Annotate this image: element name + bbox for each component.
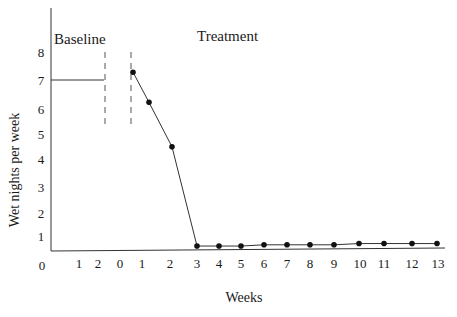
data-point-marker xyxy=(194,243,200,249)
x-tick: 1 xyxy=(76,256,83,271)
x-axis-title: Weeks xyxy=(226,290,263,305)
x-tick: 9 xyxy=(331,256,338,271)
y-tick-4: 4 xyxy=(38,152,45,167)
data-point-marker xyxy=(284,242,290,248)
x-tick-labels: 0 1 2 0 1 2 3 4 5 6 7 8 9 10 11 12 13 xyxy=(39,256,445,273)
x-tick: 2 xyxy=(167,256,174,271)
x-tick: 8 xyxy=(307,256,314,271)
y-axis-title: Wet nights per week xyxy=(7,113,22,227)
y-tick-1: 1 xyxy=(38,229,45,244)
data-point-marker xyxy=(130,69,136,75)
x-tick: 5 xyxy=(238,256,245,271)
y-tick-6: 6 xyxy=(38,102,45,117)
y-tick-3: 3 xyxy=(38,180,45,195)
x-tick: 13 xyxy=(432,256,445,271)
data-point-marker xyxy=(356,241,362,247)
chart: Baseline Treatment 8 7 6 5 4 3 2 1 0 1 2… xyxy=(0,0,457,317)
x-tick: 1 xyxy=(139,256,146,271)
data-point-marker xyxy=(146,100,152,106)
x-tick: 0 xyxy=(117,256,124,271)
x-tick: 10 xyxy=(354,256,367,271)
data-point-marker xyxy=(409,241,415,247)
x-tick: 0 xyxy=(39,258,46,273)
data-point-marker xyxy=(434,241,440,247)
phase-label-treatment: Treatment xyxy=(197,28,259,44)
phase-label-baseline: Baseline xyxy=(54,31,106,47)
data-point-marker xyxy=(381,241,387,247)
data-point-marker xyxy=(331,242,337,248)
treatment-series xyxy=(130,69,440,248)
x-axis xyxy=(51,248,445,251)
x-tick: 7 xyxy=(284,256,291,271)
y-tick-7: 7 xyxy=(38,73,45,88)
y-tick-8: 8 xyxy=(38,45,45,60)
data-point-marker xyxy=(216,243,222,249)
x-tick: 6 xyxy=(261,256,268,271)
x-tick: 2 xyxy=(95,256,102,271)
data-point-marker xyxy=(307,242,313,248)
data-point-marker xyxy=(261,242,267,248)
x-tick: 3 xyxy=(194,256,201,271)
x-tick: 12 xyxy=(406,256,419,271)
x-tick: 11 xyxy=(378,256,391,271)
data-point-marker xyxy=(238,243,244,249)
y-tick-5: 5 xyxy=(38,127,45,142)
x-tick: 4 xyxy=(216,256,223,271)
data-point-marker xyxy=(169,144,175,150)
treatment-series-line xyxy=(133,72,437,246)
y-tick-2: 2 xyxy=(38,206,45,221)
y-tick-labels: 8 7 6 5 4 3 2 1 xyxy=(38,45,45,244)
